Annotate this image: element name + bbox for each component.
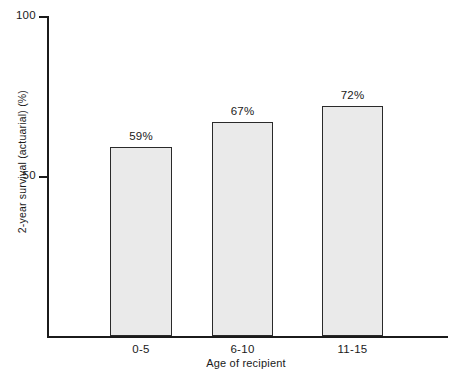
y-axis-title: 2-year survival (actuarial) (%) xyxy=(17,93,28,233)
bar-value-label-6-10: 67% xyxy=(202,106,283,118)
bar-6-10 xyxy=(212,122,273,336)
y-tick-mark-50 xyxy=(39,176,48,178)
x-axis-title: Age of recipient xyxy=(170,358,322,369)
y-tick-label-100: 100 xyxy=(0,10,36,22)
bar-value-label-11-15: 72% xyxy=(312,90,393,102)
x-category-label-0-5: 0-5 xyxy=(100,344,182,356)
bar-value-label-0-5: 59% xyxy=(100,131,182,143)
bar-11-15 xyxy=(322,106,383,336)
bar-0-5 xyxy=(110,147,172,336)
x-category-label-11-15: 11-15 xyxy=(312,344,393,356)
x-category-label-6-10: 6-10 xyxy=(202,344,283,356)
y-tick-mark-100 xyxy=(39,16,48,18)
bar-chart: 100 50 2-year survival (actuarial) (%) 5… xyxy=(0,0,457,377)
x-axis-line xyxy=(47,336,448,338)
